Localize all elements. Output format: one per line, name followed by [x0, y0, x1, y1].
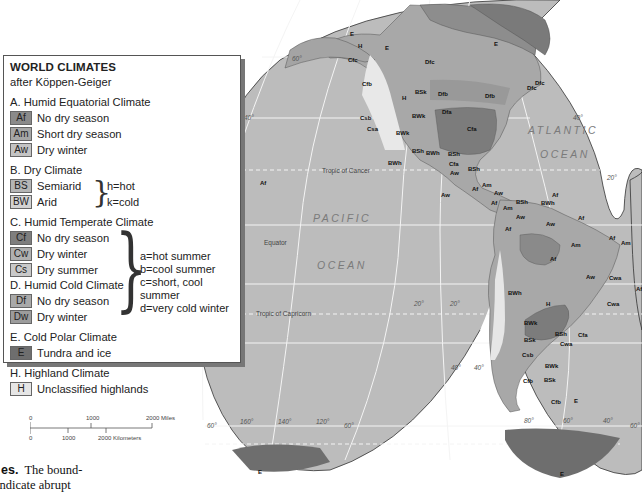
- section-heading: H. Highland Climate: [10, 366, 234, 381]
- grid-label: 60°: [207, 422, 217, 429]
- legend-item-label: Dry winter: [37, 143, 87, 158]
- svg-text:Cfa: Cfa: [449, 161, 459, 167]
- svg-text:H: H: [358, 43, 362, 49]
- swatch-e: E: [10, 346, 32, 360]
- legend-item-label: No dry season: [37, 294, 109, 309]
- svg-text:Af: Af: [505, 226, 512, 232]
- svg-text:Cfa: Cfa: [467, 126, 477, 132]
- svg-text:Af: Af: [578, 215, 585, 221]
- svg-text:Af: Af: [491, 200, 498, 206]
- legend-item-aw: AwDry winter: [10, 142, 234, 158]
- equator-label: Equator: [264, 239, 288, 247]
- grid-label: 40°: [451, 364, 461, 371]
- grid-label: 120°: [316, 418, 330, 425]
- svg-text:BWk: BWk: [524, 320, 538, 326]
- svg-text:BWk: BWk: [412, 113, 426, 119]
- note-a: a=hot summer: [140, 250, 234, 263]
- svg-text:Dfc: Dfc: [425, 59, 435, 65]
- svg-text:BWk: BWk: [396, 130, 410, 136]
- svg-text:Csa: Csa: [367, 126, 379, 132]
- scale-km-1000: 1000: [62, 435, 75, 441]
- svg-text:Aw: Aw: [546, 221, 555, 227]
- swatch-cf: Cf: [10, 231, 32, 245]
- swatch-am: Am: [10, 127, 32, 141]
- svg-text:BSh: BSh: [412, 148, 424, 154]
- grid-label: 20°: [449, 300, 460, 307]
- svg-text:Am: Am: [621, 240, 631, 246]
- svg-text:Csb: Csb: [360, 115, 372, 121]
- svg-text:E: E: [350, 31, 354, 37]
- swatch-df: Df: [10, 294, 32, 308]
- tropic-of-capricorn-label: Tropic of Capricorn: [256, 310, 311, 318]
- svg-text:Cwa: Cwa: [609, 275, 622, 281]
- svg-text:Cwa: Cwa: [607, 301, 620, 307]
- grid-label: 60°: [292, 55, 302, 62]
- svg-text:Aw: Aw: [450, 170, 459, 176]
- ocean-label-atlantic: ATLANTIC: [527, 124, 598, 136]
- svg-text:Dfb: Dfb: [485, 93, 495, 99]
- svg-text:Cfb: Cfb: [362, 81, 372, 87]
- legend-item-am: AmShort dry season: [10, 126, 234, 142]
- legend-item-label: No dry season: [37, 231, 109, 246]
- note-hot: h=hot: [107, 180, 139, 193]
- grid-label: 160°: [240, 418, 254, 425]
- legend-section-h: H. Highland Climate HUnclassified highla…: [10, 366, 234, 397]
- svg-text:Cfb: Cfb: [523, 378, 533, 384]
- svg-text:Af: Af: [552, 192, 559, 198]
- legend-section-b: B. Dry Climate BSSemiarid BWArid } h=hot…: [10, 163, 234, 210]
- legend-section-e: E. Cold Polar Climate ETundra and ice: [10, 330, 234, 361]
- swatch-af: Af: [10, 111, 32, 125]
- grid-label: 40°: [474, 364, 484, 371]
- grid-label: 40°: [603, 417, 613, 424]
- legend-panel: WORLD CLIMATES after Köppen-Geiger A. Hu…: [3, 55, 241, 363]
- legend-item-label: Semiarid: [37, 179, 81, 194]
- svg-text:Csb: Csb: [522, 352, 534, 358]
- swatch-aw: Aw: [10, 143, 32, 157]
- note-b: b=cool summer: [140, 263, 234, 276]
- svg-text:Aw: Aw: [494, 190, 503, 196]
- svg-text:Dfb: Dfb: [438, 91, 448, 97]
- svg-text:Aw: Aw: [516, 214, 525, 220]
- legend-title: WORLD CLIMATES: [10, 60, 234, 75]
- section-heading: B. Dry Climate: [10, 163, 234, 178]
- legend-item-label: Short dry season: [37, 127, 122, 142]
- caption-bold: es.: [1, 463, 18, 477]
- tropic-of-cancer-label: Tropic of Cancer: [322, 167, 371, 175]
- svg-text:Af: Af: [260, 180, 267, 186]
- legend-item-label: Dry winter: [37, 247, 87, 262]
- legend-item-af: AfNo dry season: [10, 110, 234, 126]
- swatch-dw: Dw: [10, 310, 32, 324]
- caption-text: es. The bound- indicate abrupt: [0, 463, 82, 493]
- swatch-h: H: [10, 382, 32, 396]
- svg-text:Cfc: Cfc: [348, 57, 358, 63]
- svg-text:Aw: Aw: [441, 192, 450, 198]
- svg-text:Cfb: Cfb: [551, 399, 561, 405]
- legend-item-label: No dry season: [37, 111, 109, 126]
- svg-text:BSh: BSh: [448, 151, 460, 157]
- svg-text:Dfc: Dfc: [527, 85, 537, 91]
- svg-text:BSk: BSk: [544, 377, 556, 383]
- scale-km-0: 0: [29, 435, 32, 441]
- svg-text:BWh: BWh: [426, 150, 440, 156]
- grid-label: 60°: [344, 422, 354, 429]
- legend-item-label: Arid: [37, 195, 57, 210]
- grid-label: 60°: [563, 417, 573, 424]
- grid-label: 20°: [606, 174, 617, 181]
- scale-miles-0: 0: [29, 415, 32, 421]
- grid-label: 60°: [630, 422, 640, 429]
- legend-subtitle: after Köppen-Geiger: [10, 75, 234, 90]
- swatch-bw: BW: [10, 195, 32, 209]
- svg-text:H: H: [402, 95, 406, 101]
- scale-bar: 0 1000 2000 Miles 0 1000 2000 Kilometers: [30, 415, 190, 445]
- caption-line-1: The bound-: [24, 463, 82, 477]
- ocean-label-pacific: PACIFIC: [313, 212, 371, 224]
- grid-label: 80°: [524, 417, 534, 424]
- grid-label: 20°: [413, 300, 424, 307]
- svg-text:Am: Am: [482, 182, 492, 188]
- svg-text:BSk: BSk: [524, 337, 536, 343]
- ocean-label-atlantic-2: OCEAN: [540, 148, 590, 160]
- legend-item-e: ETundra and ice: [10, 345, 234, 361]
- grid-label: 140°: [278, 418, 292, 425]
- section-heading: E. Cold Polar Climate: [10, 330, 234, 345]
- legend-item-h: HUnclassified highlands: [10, 381, 234, 397]
